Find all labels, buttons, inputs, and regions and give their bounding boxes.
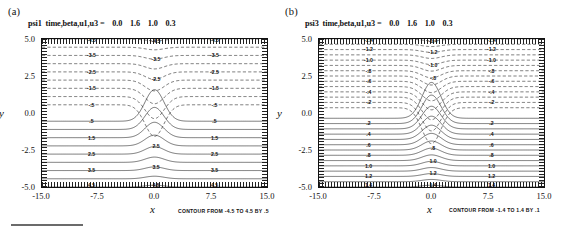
contour-label: -4.5 [152,39,161,44]
contour-label: 1.4 [429,182,436,187]
panel-b-ytick-25: 2.5 [282,71,312,81]
panel-b-ytick-n25: -2.5 [282,145,312,155]
contour-label: -.2 [488,99,494,105]
contour-label: -.8 [430,75,436,81]
contour-label: 1.5 [88,135,95,141]
panel-a-plot-area: -4.5-4.5-4.5-3.5-3.5-3.5-2.5-2.5-2.5-1.5… [41,38,268,188]
contour-label: .6 [366,142,370,148]
panel-a-contour-lines: -4.5-4.5-4.5-3.5-3.5-3.5-2.5-2.5-2.5-1.5… [42,39,267,187]
contour-label: .8 [366,152,370,158]
contour-label: 1.5 [211,135,218,141]
contour-label: 1.0 [488,163,495,169]
panel-b-ytick-0: 0.0 [282,108,312,118]
panel-a-xtick-n15: -15.0 [21,191,61,201]
contour-label: 4.5 [88,182,95,187]
panel-a-xtick-0: 0.0 [134,191,174,201]
panel-b-ytick-5: 5.0 [282,34,312,44]
panel-b-xtick-0: 0.0 [411,191,451,201]
contour-label: .5 [89,118,93,124]
contour-label: 4.5 [152,182,159,187]
contour-label: -1.4 [364,39,373,43]
panel-a-x-axis-label: x [150,203,155,215]
contour-label: -.8 [365,68,371,74]
panel-b-contour-caption: CONTOUR FROM -1.4 TO 1.4 BY .1 [449,207,540,213]
contour-label: -.5 [211,102,217,108]
panel-b-x-axis-label: x [427,203,432,215]
contour-line [42,107,267,129]
contour-label: -1.5 [87,85,96,91]
contour-label: -.6 [365,78,371,84]
contour-label: .2 [489,120,493,126]
panel-a-ytick-5: 5.0 [5,34,35,44]
contour-label: 1.0 [365,163,372,169]
panel-a-ytick-25: 2.5 [5,71,35,81]
contour-label: -.4 [365,89,371,95]
contour-label: 3.5 [211,167,218,173]
contour-label: 2.5 [211,151,218,157]
contour-label: -2.5 [210,69,219,75]
contour-label: 2.5 [152,143,159,149]
contour-line [42,64,267,69]
contour-label: -1.2 [429,49,438,55]
contour-label: 3.5 [88,167,95,173]
panel-b-y-axis-label: y [277,107,282,119]
contour-label: 2.5 [88,151,95,157]
panel-b-xtick-75: 7.5 [468,191,508,201]
panel-a-label: (a) [8,6,20,17]
panel-a-ytick-n25: -2.5 [5,145,35,155]
contour-label: 1.2 [429,170,436,176]
contour-line [319,81,544,92]
contour-label: 1.2 [488,173,495,179]
panel-b-title: psi3 time,beta,u1,u3 = 0.0 1.6 1.0 0.3 [305,19,452,28]
contour-line [319,133,544,144]
panel-a-ytick-0: 0.0 [5,108,35,118]
contour-line [319,82,544,118]
panel-a-contour-caption: CONTOUR FROM -4.5 TO 4.5 BY .5 [178,208,269,214]
contour-label: -3.5 [87,52,96,58]
contour-label: -.5 [88,102,94,108]
contour-line [319,95,544,123]
panel-a: (a) psi1 time,beta,u1,u3 = 0.0 1.6 1.0 0… [0,0,281,232]
contour-line [42,105,267,137]
contour-label: 4.5 [211,182,218,187]
panel-b-xtick-15: 15.0 [524,191,562,201]
contour-label: -2.5 [152,76,161,82]
contour-label: .8 [489,152,493,158]
contour-label: -.6 [488,78,494,84]
contour-label: -1.0 [487,57,496,63]
contour-line [42,176,267,179]
contour-label: -1.4 [487,39,496,43]
contour-line [319,125,544,139]
contour-label: 3.5 [152,164,159,170]
contour-label: -.8 [488,68,494,74]
panel-b-contour-lines: -1.4-1.4-1.4-1.2-1.2-1.2-1.0-1.0-1.0-.8-… [319,39,544,187]
panel-a-y-axis-label: y [0,107,4,119]
contour-label: .4 [366,131,370,137]
contour-label: -1.0 [364,57,373,63]
contour-label: -2.5 [87,69,96,75]
contour-label: -4.5 [210,39,219,43]
contour-label: -1.2 [364,46,373,52]
contour-label: .8 [431,145,435,151]
contour-label: -1.2 [487,46,496,52]
contour-line [319,108,544,144]
contour-label: -.4 [488,89,494,95]
contour-label: -1.0 [429,62,438,68]
panel-b-plot-area: -1.4-1.4-1.4-1.2-1.2-1.2-1.0-1.0-1.0-.8-… [318,38,545,188]
contour-line [42,90,267,122]
contour-line [42,157,267,162]
contour-label: 1.0 [429,158,436,164]
contour-label: 1.4 [365,182,372,187]
panel-b-xtick-n15: -15.0 [298,191,338,201]
panel-a-title: psi1 time,beta,u1,u3 = 0.0 1.6 1.0 0.3 [28,19,175,28]
contour-label: -4.5 [87,39,96,43]
panel-a-xtick-75: 7.5 [191,191,231,201]
panel-b-xtick-n75: -7.5 [354,191,394,201]
panel-b: (b) psi3 time,beta,u1,u3 = 0.0 1.6 1.0 0… [281,0,562,232]
contour-line [319,87,544,101]
contour-line [319,44,544,46]
contour-label: -1.4 [429,39,438,44]
contour-label: .5 [212,118,216,124]
contour-label: .2 [366,120,370,126]
contour-label: -1.5 [210,85,219,91]
